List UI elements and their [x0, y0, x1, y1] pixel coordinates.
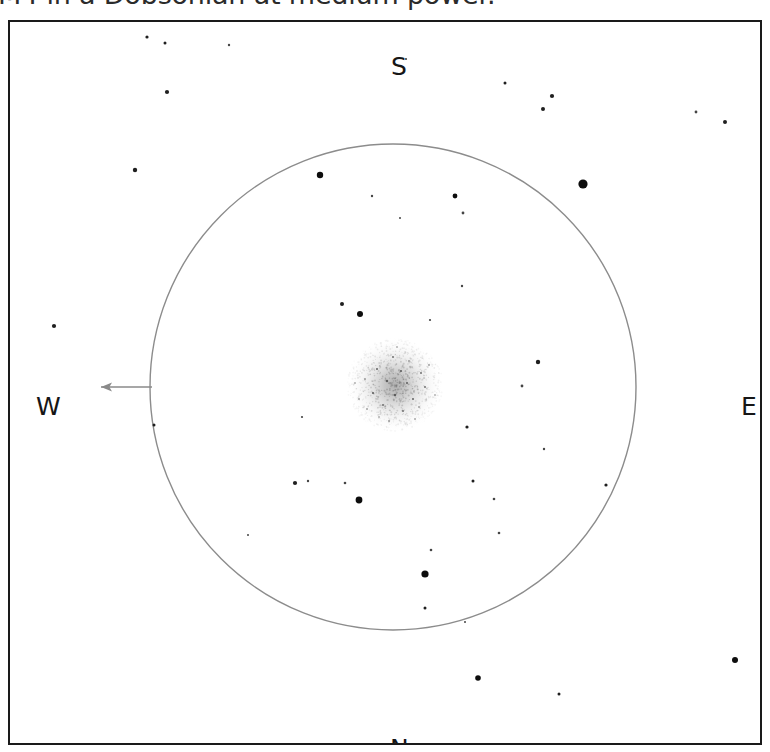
- cluster-grain-dot: [370, 387, 372, 389]
- cluster-grain-dot: [365, 417, 367, 419]
- direction-label-north: N: [390, 736, 409, 745]
- cluster-grain-dot: [354, 408, 356, 410]
- cluster-grain-dot: [425, 391, 427, 393]
- cluster-grain-dot: [439, 401, 440, 402]
- cluster-grain-dot: [358, 406, 360, 408]
- cluster-grain-dot: [401, 340, 403, 342]
- cluster-grain-dot: [409, 348, 410, 349]
- cluster-grain-dot: [435, 397, 436, 398]
- cluster-grain-dot: [401, 352, 402, 353]
- cluster-grain-dot: [389, 348, 391, 350]
- cluster-grain-dot: [347, 381, 348, 382]
- cluster-grain-dot: [403, 424, 404, 425]
- cluster-grain-dot: [429, 397, 430, 398]
- cluster-grain-dot: [399, 420, 401, 422]
- cluster-grain-dot: [359, 373, 360, 374]
- cluster-grain-dot: [438, 390, 439, 391]
- cluster-grain-dot: [418, 353, 420, 355]
- cluster-grain-dot: [413, 352, 414, 353]
- cluster-grain-dot: [425, 378, 426, 379]
- cluster-grain-dot: [424, 421, 425, 422]
- cluster-grain-dot: [428, 407, 430, 409]
- cluster-grain-dot: [368, 405, 369, 406]
- field-star: [356, 497, 363, 504]
- field-star: [462, 212, 465, 215]
- cluster-grain-dot: [399, 386, 401, 388]
- cluster-grain-dot: [429, 415, 430, 416]
- cluster-grain-dot: [393, 421, 394, 422]
- cluster-grain-dot: [402, 378, 404, 380]
- cluster-grain-dot: [405, 386, 406, 387]
- cluster-grain-dot: [401, 368, 402, 369]
- field-star: [541, 107, 545, 111]
- cluster-grain-dot: [424, 409, 425, 410]
- cluster-grain-dot: [403, 367, 405, 369]
- cluster-grain-dot: [426, 379, 427, 380]
- field-star: [371, 195, 373, 197]
- cluster-grain-dot: [368, 374, 370, 376]
- cluster-grain-dot: [413, 391, 415, 393]
- cluster-grain-dot: [408, 401, 409, 402]
- cluster-grain-dot: [410, 383, 411, 384]
- cluster-grain-dot: [348, 391, 349, 392]
- cluster-grain-dot: [387, 354, 389, 356]
- cluster-grain-dot: [381, 350, 383, 352]
- cluster-grain-dot: [386, 369, 388, 371]
- cluster-grain-dot: [393, 351, 394, 352]
- cluster-speckle-star: [428, 364, 430, 366]
- cluster-grain-dot: [434, 391, 435, 392]
- cluster-grain-dot: [372, 383, 374, 385]
- cluster-grain-dot: [401, 429, 403, 431]
- cluster-grain-dot: [435, 373, 436, 374]
- cluster-grain-dot: [351, 369, 352, 370]
- cluster-grain-dot: [396, 363, 398, 365]
- field-star: [558, 693, 561, 696]
- field-star: [578, 179, 587, 188]
- field-star: [453, 194, 458, 199]
- cluster-grain-dot: [422, 392, 423, 393]
- field-star: [521, 385, 524, 388]
- cluster-grain-dot: [368, 365, 369, 366]
- cluster-grain-dot: [350, 395, 351, 396]
- cluster-grain-dot: [390, 370, 392, 372]
- cluster-grain-dot: [363, 353, 365, 355]
- cluster-grain-dot: [365, 396, 366, 397]
- field-star: [461, 285, 463, 287]
- cluster-grain-dot: [388, 360, 389, 361]
- cluster-grain-dot: [418, 348, 420, 350]
- cluster-grain-dot: [376, 396, 377, 397]
- cluster-grain-dot: [356, 370, 358, 372]
- cluster-grain-dot: [408, 377, 410, 379]
- cluster-grain-dot: [411, 393, 412, 394]
- cluster-grain-dot: [388, 340, 390, 342]
- cluster-grain-dot: [377, 349, 379, 351]
- cluster-grain-dot: [401, 339, 402, 340]
- cluster-grain-dot: [387, 341, 388, 342]
- cluster-grain-dot: [421, 370, 422, 371]
- cluster-grain-dot: [367, 353, 368, 354]
- cluster-grain-dot: [439, 399, 440, 400]
- cluster-grain-dot: [378, 418, 379, 419]
- cluster-grain-dot: [412, 411, 414, 413]
- cluster-grain-dot: [428, 387, 429, 388]
- cluster-grain-dot: [431, 411, 432, 412]
- cluster-grain-dot: [432, 396, 434, 398]
- cluster-grain-dot: [393, 408, 395, 410]
- cluster-grain-dot: [431, 365, 433, 367]
- cluster-grain-dot: [402, 385, 404, 387]
- cluster-grain-dot: [386, 350, 388, 352]
- cluster-grain-dot: [393, 399, 395, 401]
- cluster-grain-dot: [370, 395, 372, 397]
- cluster-grain-dot: [417, 413, 419, 415]
- cluster-grain-dot: [414, 350, 415, 351]
- cluster-grain-dot: [416, 417, 417, 418]
- cluster-grain-dot: [423, 375, 425, 377]
- cluster-grain-dot: [384, 414, 386, 416]
- cluster-grain-dot: [360, 358, 362, 360]
- cluster-grain-dot: [374, 356, 376, 358]
- cluster-grain-dot: [371, 415, 373, 417]
- cluster-grain-dot: [404, 409, 406, 411]
- cluster-grain-dot: [435, 363, 436, 364]
- cluster-grain-dot: [386, 339, 387, 340]
- cluster-grain-dot: [421, 393, 423, 395]
